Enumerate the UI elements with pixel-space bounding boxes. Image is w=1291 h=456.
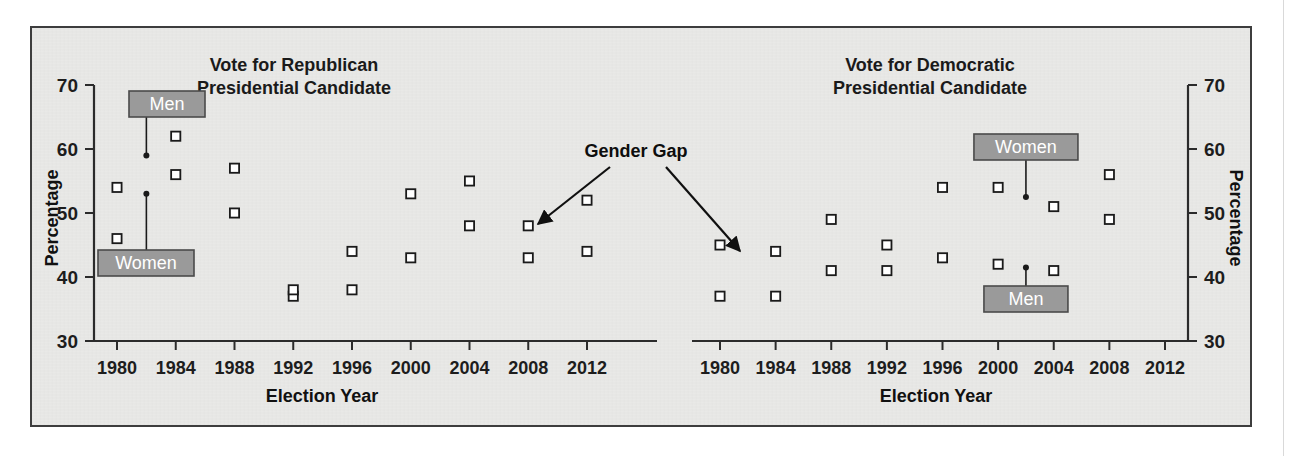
gender-gap-arrow-left xyxy=(538,167,610,224)
gender-gap-annotation-layer: Gender Gap xyxy=(32,28,1250,425)
chart-panel: Vote for Republican Presidential Candida… xyxy=(30,26,1252,427)
gender-gap-label: Gender Gap xyxy=(584,141,687,161)
figure-page: Vote for Republican Presidential Candida… xyxy=(0,0,1291,456)
page-edge-rule xyxy=(1283,0,1284,456)
gender-gap-arrow-right xyxy=(666,167,740,251)
